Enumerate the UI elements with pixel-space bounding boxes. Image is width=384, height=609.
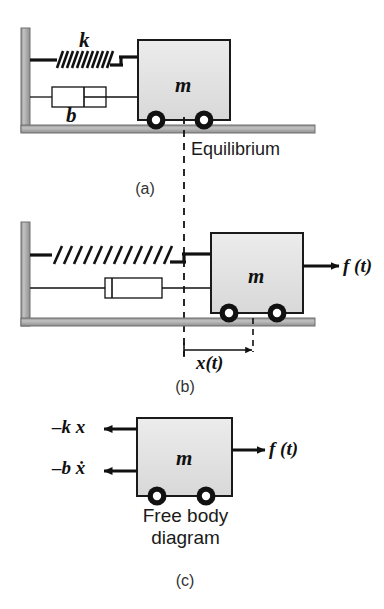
applied-force-label-b: f (t) xyxy=(343,255,372,277)
free-body-diagram-title-line1: Free body xyxy=(113,505,258,527)
mass-label-c: m xyxy=(176,446,192,471)
applied-force-label-c: f (t) xyxy=(269,438,298,460)
damping-force-label-c: –b ẋ xyxy=(52,457,85,479)
panel-caption-b: (b) xyxy=(155,378,215,396)
damping-constant-label-a: b xyxy=(66,103,77,128)
mass-label-a: m xyxy=(175,73,191,98)
wall-a xyxy=(21,28,30,132)
spring-constant-label-a: k xyxy=(79,28,90,53)
panel-caption-a: (a) xyxy=(115,180,175,198)
equilibrium-label: Equilibrium xyxy=(191,139,280,160)
panel-caption-c: (c) xyxy=(155,572,215,590)
free-body-diagram-title-line2: diagram xyxy=(113,527,258,549)
spring-force-label-c: –k x xyxy=(52,416,85,438)
displacement-label-b: x(t) xyxy=(196,352,223,374)
wall-b xyxy=(21,222,30,326)
mass-label-b: m xyxy=(248,264,264,289)
